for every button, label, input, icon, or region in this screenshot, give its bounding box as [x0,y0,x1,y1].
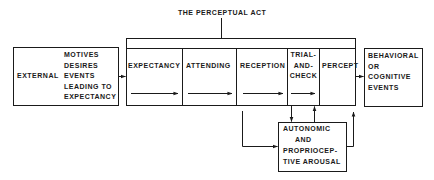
stage-attending: ATTENDING [186,61,231,72]
perceptual-act-diagram: THE PERCEPTUAL ACT EXTERNAL MOTIVES DESI… [0,0,434,180]
diagram-title: THE PERCEPTUAL ACT [178,8,266,19]
stage-percept: PERCEPT [322,61,359,72]
stage-expectancy: EXPECTANCY [128,61,180,72]
stage-reception: RECEPTION [240,61,285,72]
stage-trial-line: TRIAL- [287,50,320,61]
external-label: EXTERNAL [17,71,59,82]
external-line: EXPECTANCY [64,92,116,103]
output-line: COGNITIVE [368,72,411,83]
stage-trial-line: CHECK [287,71,320,82]
external-line: EVENTS [64,71,95,82]
output-line: EVENTS [368,83,399,94]
arousal-line: AUTONOMIC [283,124,331,135]
arousal-line: TIVE AROUSAL [283,157,341,168]
arousal-line: AND [295,135,312,146]
external-line: MOTIVES [64,50,99,61]
arousal-line: PROPRIOCEP- [283,146,338,157]
output-line: BEHAVIORAL [368,51,419,62]
